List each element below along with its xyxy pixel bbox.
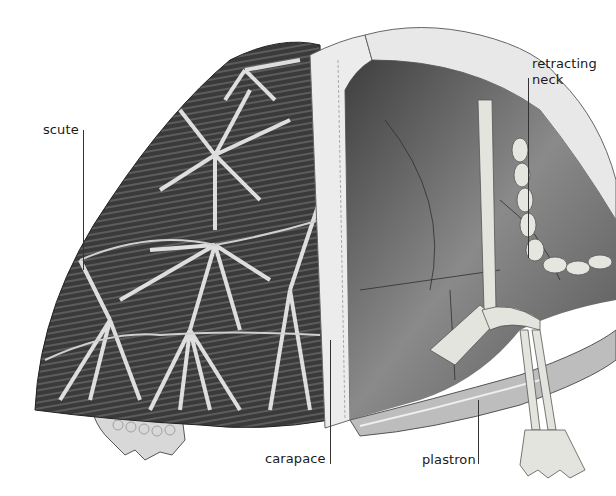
leader-line-plastron (478, 400, 479, 464)
tortoise-illustration (0, 0, 616, 496)
leader-line-retracting-neck (528, 78, 529, 258)
label-retracting-neck-line1: retracting (532, 56, 597, 71)
leader-line-scute (83, 130, 84, 270)
leader-line-carapace (330, 340, 331, 464)
label-scute: scute (43, 122, 79, 137)
label-plastron: plastron (422, 452, 476, 467)
carapace-shell (35, 42, 330, 427)
label-carapace: carapace (265, 451, 326, 466)
label-retracting-neck-line2: neck (532, 72, 563, 87)
